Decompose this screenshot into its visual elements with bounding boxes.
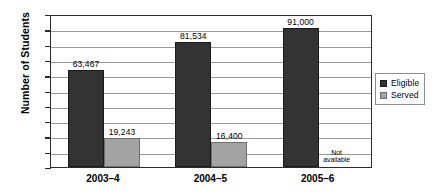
bar-value-label: 81,534: [167, 31, 219, 41]
y-axis-tick: [45, 30, 51, 31]
not-available-line-2: available: [311, 156, 363, 164]
y-axis-tick: [45, 168, 51, 169]
legend-swatch-served-icon: [380, 92, 387, 99]
bar-value-label: 91,000: [275, 17, 327, 27]
y-axis-tick: [45, 137, 51, 138]
plot-area: 63,46719,24381,53416,40091,000Notavailab…: [50, 15, 372, 168]
bar-eligible-2005–6[interactable]: [283, 28, 319, 167]
y-axis-ticks: [50, 15, 51, 168]
y-axis-tick: [45, 76, 51, 77]
bars-layer: 63,46719,24381,53416,40091,000Notavailab…: [51, 16, 371, 167]
x-axis-labels: 2003–42004–52005–6: [50, 173, 372, 191]
bar-value-label: 16,400: [203, 131, 255, 141]
legend-swatch-eligible-icon: [380, 80, 387, 87]
bar-served-2003–4[interactable]: [104, 138, 140, 167]
not-available-annotation: Notavailable: [311, 149, 363, 164]
bar-served-2004–5[interactable]: [211, 142, 247, 167]
legend-item-eligible[interactable]: Eligible: [380, 77, 419, 89]
bar-eligible-2003–4[interactable]: [68, 70, 104, 167]
y-axis-tick: [45, 107, 51, 108]
bar-value-label: 63,467: [60, 59, 112, 69]
bar-chart: Number of Students 63,46719,24381,53416,…: [0, 0, 441, 196]
x-axis-label: 2003–4: [63, 173, 143, 184]
y-axis-tick: [45, 122, 51, 123]
y-axis-tick: [45, 92, 51, 93]
legend-item-served[interactable]: Served: [380, 89, 419, 101]
legend-label-served: Served: [391, 90, 419, 100]
y-axis-tick: [45, 61, 51, 62]
bar-eligible-2004–5[interactable]: [175, 42, 211, 167]
not-available-line-1: Not: [311, 149, 363, 157]
legend-label-eligible: Eligible: [391, 78, 419, 88]
y-axis-tick: [45, 15, 51, 16]
chart-legend: Eligible Served: [375, 73, 425, 105]
bar-value-label: 19,243: [96, 127, 148, 137]
x-axis-label: 2005–6: [278, 173, 358, 184]
x-axis-label: 2004–5: [170, 173, 250, 184]
y-axis-tick: [45, 46, 51, 47]
y-axis-title: Number of Students: [19, 0, 31, 133]
y-axis-tick: [45, 153, 51, 154]
